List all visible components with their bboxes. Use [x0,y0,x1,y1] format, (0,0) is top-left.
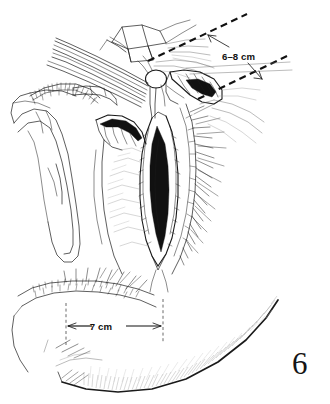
figure-number: 6 [292,348,308,379]
illustration-canvas: 6–8 cm 7 cm [0,0,330,404]
incision-length-label: 6–8 cm [222,51,255,62]
perineal-width-label: 7 cm [90,321,112,332]
surgical-figure: 6–8 cm 7 cm 6 [0,0,330,404]
